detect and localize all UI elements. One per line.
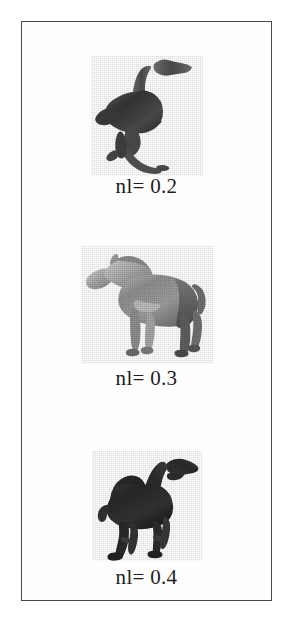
shape-stage-horse: [22, 238, 271, 366]
figure-frame: nl= 0.2: [21, 21, 272, 601]
shape-stage-ostrich: [22, 46, 271, 174]
figure-panel-horse: nl= 0.3: [22, 238, 271, 390]
panel-caption-camel: nl= 0.4: [22, 565, 271, 589]
figure-root: nl= 0.2: [0, 0, 294, 624]
shape-stage-camel: [22, 437, 271, 565]
panel-caption-horse: nl= 0.3: [22, 366, 271, 390]
ostrich-shape: [91, 56, 203, 176]
figure-panel-camel: nl= 0.4: [22, 437, 271, 589]
figure-panel-ostrich: nl= 0.2: [22, 46, 271, 198]
camel-shape: [92, 451, 202, 561]
panel-caption-ostrich: nl= 0.2: [22, 174, 271, 198]
horse-shape: [81, 246, 213, 364]
